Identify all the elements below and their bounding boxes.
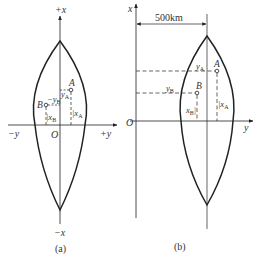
axis-x-neg-label-a: −x — [54, 227, 66, 238]
offset-label-b: 500km — [155, 12, 183, 23]
ya-label-b: yA — [195, 61, 205, 72]
axis-x-label-b: x — [127, 3, 133, 14]
xb-label-b: xB| — [185, 105, 196, 116]
panel-b: x y O 500km A B yA yB |xA xB| (b) — [126, 3, 253, 253]
caption-b: (b) — [174, 241, 186, 253]
point-a-marker — [69, 88, 73, 92]
caption-a: (a) — [55, 243, 66, 255]
ya-label-a: yA — [60, 89, 70, 100]
origin-label-a: O — [51, 129, 58, 140]
point-b-panel-b-marker — [195, 91, 199, 95]
xa-label-a: |xA — [72, 108, 83, 119]
axis-x-pos-label-a: +x — [55, 4, 67, 15]
point-b-label-a: B — [37, 100, 43, 110]
point-b-panel-a-marker — [215, 69, 219, 73]
point-b-label-b: B — [196, 81, 202, 91]
projection-zone-diagram: +x −x +y −y O A B yA −yB |xA |xB (a) x — [0, 0, 259, 260]
axis-y-pos-label-a: +y — [100, 128, 112, 139]
point-a-label-a: A — [68, 78, 75, 88]
xa-label-b: |xA — [218, 99, 229, 110]
axis-y-neg-label-a: −y — [8, 128, 20, 139]
xb-label-a: |xB — [46, 112, 56, 123]
origin-label-b: O — [126, 117, 133, 128]
point-a-label-b: A — [213, 59, 220, 69]
yb-label-a: −yB — [47, 94, 61, 105]
yb-label-b: yB — [165, 83, 174, 94]
axis-y-label-b: y — [243, 122, 249, 133]
panel-a: +x −x +y −y O A B yA −yB |xA |xB (a) — [8, 4, 117, 255]
